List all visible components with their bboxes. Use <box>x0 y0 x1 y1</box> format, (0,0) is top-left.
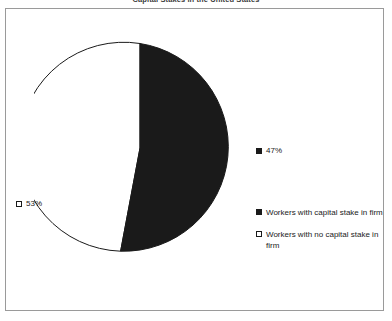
legend-item-label: Workers with capital stake in firm <box>266 207 383 218</box>
filled-square-icon <box>256 148 262 154</box>
pie-svg <box>34 39 246 257</box>
chart-title: Capital Stakes in the United States <box>0 0 392 4</box>
pie-chart <box>34 39 246 257</box>
data-label-value: 53% <box>26 199 42 208</box>
hollow-square-icon <box>256 231 262 237</box>
hollow-square-icon <box>16 201 22 207</box>
legend-item-no-capital-stake[interactable]: Workers with no capital stake in firm <box>256 229 384 251</box>
data-label-no-capital-stake: 53% <box>16 199 42 208</box>
chart-plot-frame: 47% 53% Workers with capital stake in fi… <box>5 8 384 311</box>
legend-item-capital-stake[interactable]: Workers with capital stake in firm <box>256 207 384 218</box>
data-label-value: 47% <box>266 146 282 155</box>
pie-slice-no-capital-stake[interactable] <box>34 42 140 251</box>
filled-square-icon <box>256 209 262 215</box>
chart-legend: Workers with capital stake in firm Worke… <box>256 207 384 262</box>
legend-item-label: Workers with no capital stake in firm <box>266 229 384 251</box>
data-label-capital-stake: 47% <box>256 146 282 155</box>
